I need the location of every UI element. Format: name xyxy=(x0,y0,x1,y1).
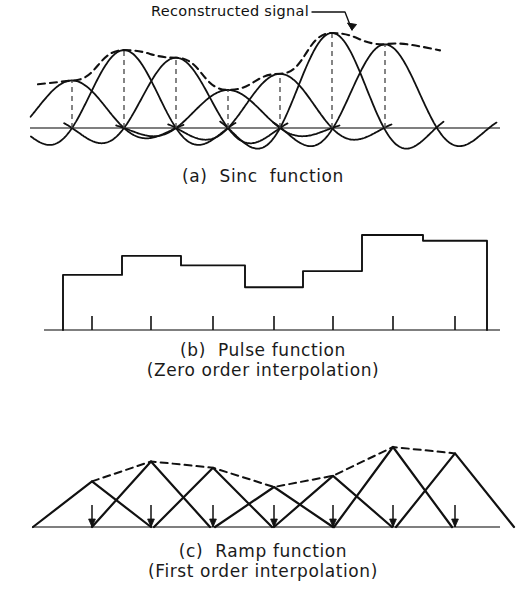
caption-c-line1: (c) Ramp function xyxy=(0,541,526,561)
sample-arrowhead xyxy=(452,519,459,527)
sinc-basis-curve xyxy=(31,81,184,139)
reconstructed-signal-leader-line xyxy=(312,12,352,30)
caption-panel-b: (b) Pulse function (Zero order interpola… xyxy=(0,340,526,380)
caption-panel-c: (c) Ramp function (First order interpola… xyxy=(0,541,526,581)
pulse-staircase-outline xyxy=(63,235,487,330)
caption-a-line1: (a) Sinc function xyxy=(0,166,526,186)
caption-panel-a: (a) Sinc function xyxy=(0,166,526,186)
caption-c-line2: (First order interpolation) xyxy=(0,561,526,581)
leader-arrowhead xyxy=(348,23,357,30)
signal-reconstruction-figure: Reconstructed signal (a) Sinc function (… xyxy=(0,0,526,601)
caption-b-line2: (Zero order interpolation) xyxy=(0,360,526,380)
reconstructed-signal-label: Reconstructed signal xyxy=(151,3,309,19)
reconstructed-signal-envelope xyxy=(38,33,440,90)
caption-b-line1: (b) Pulse function xyxy=(0,340,526,360)
